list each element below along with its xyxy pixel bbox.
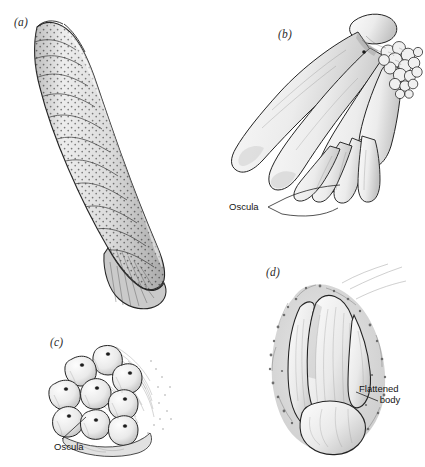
callout-oscula-c: Oscula (54, 441, 84, 452)
panel-label-c: (c) (50, 336, 63, 348)
callout-flattened-body-d: Flattened body (359, 383, 421, 405)
callout-line-1: Flattened (359, 383, 399, 394)
callout-oscula-b: Oscula (229, 201, 259, 212)
panel-d: (d) Flattened body (230, 255, 425, 467)
panel-label-b: (b) (278, 28, 292, 40)
sponge-lobe-cluster-c (49, 345, 142, 445)
callout-line-2: body (359, 394, 421, 405)
sponge-flattened-body-lobe-d (300, 401, 365, 455)
panel-a: (a) (0, 0, 212, 330)
panel-b: (b) Oscula (212, 0, 425, 240)
figure-root: (a) (0, 0, 425, 467)
panel-a-illustration (0, 0, 212, 330)
panel-label-d: (d) (266, 266, 280, 278)
sponge-base-stipple-c (141, 360, 171, 439)
panel-label-a: (a) (14, 16, 28, 28)
panel-c: (c) Oscula (30, 325, 195, 467)
panel-d-illustration (230, 255, 425, 467)
